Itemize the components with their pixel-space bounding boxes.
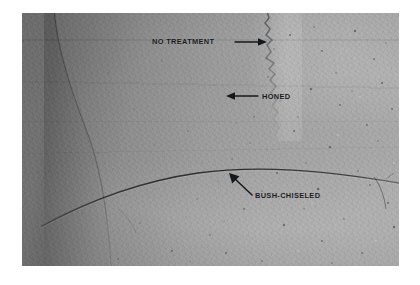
concrete-surface-photograph: NO TREATMENT HONED BUSH-CHISELED xyxy=(22,13,399,266)
figure-page: NO TREATMENT HONED BUSH-CHISELED xyxy=(0,0,420,285)
vignette xyxy=(22,13,399,266)
